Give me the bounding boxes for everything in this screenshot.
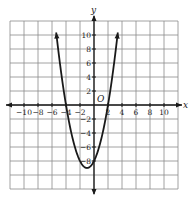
y-tick-label: −4 xyxy=(80,129,91,138)
x-axis-arrow-right-icon xyxy=(176,103,182,108)
axes xyxy=(6,15,182,195)
x-tick-label: 8 xyxy=(148,108,153,117)
y-tick-label: 4 xyxy=(86,73,91,82)
x-axis-arrow-left-icon xyxy=(6,103,12,108)
y-tick-label: −6 xyxy=(80,143,91,152)
x-axis-label: x xyxy=(183,100,188,110)
y-tick-label: 10 xyxy=(81,31,91,40)
y-tick-label: 6 xyxy=(86,59,91,68)
origin-label: O xyxy=(97,94,105,104)
x-tick-label: 4 xyxy=(120,108,125,117)
x-tick-label: −10 xyxy=(16,108,32,117)
x-tick-label: 6 xyxy=(134,108,139,117)
x-tick-label: −8 xyxy=(32,108,43,117)
x-tick-label: 10 xyxy=(159,108,169,117)
tick-labels: −10−8−6−4−2246810108642−2−4−6−8 xyxy=(16,31,169,166)
y-axis-arrow-down-icon xyxy=(92,189,97,195)
y-tick-label: −2 xyxy=(80,115,91,124)
parabola-chart: −10−8−6−4−2246810108642−2−4−6−8 x y O xyxy=(0,0,190,197)
y-axis-arrow-up-icon xyxy=(92,15,97,21)
y-tick-label: 2 xyxy=(86,87,91,96)
y-axis-label: y xyxy=(90,5,97,15)
y-tick-label: 8 xyxy=(86,45,91,54)
x-tick-label: −6 xyxy=(46,108,57,117)
